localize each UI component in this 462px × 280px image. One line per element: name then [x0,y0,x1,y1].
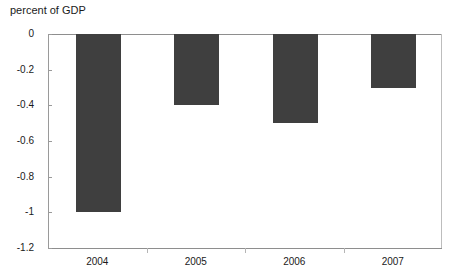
y-tick-label: -0.8 [17,172,34,182]
y-tick-label: 0 [28,29,34,39]
x-tick-mark [245,248,246,253]
y-tick-mark [48,141,52,142]
plot-area [48,34,442,248]
bar-chart-figure: percent of GDP 0-0.2-0.4-0.6-0.8-1-1.2 2… [0,0,462,280]
x-tick-mark [344,248,345,253]
x-tick-label-2004: 2004 [86,256,108,268]
y-axis: 0-0.2-0.4-0.6-0.8-1-1.2 [0,0,42,280]
bar-2005 [174,34,219,105]
x-tick-label-2007: 2007 [382,256,404,268]
y-tick-mark [48,105,52,106]
y-tick-label: -1.2 [17,243,34,253]
y-tick-label: -1 [25,207,34,217]
x-tick-label-2006: 2006 [283,256,305,268]
y-tick-label: -0.4 [17,100,34,110]
y-tick-mark [48,212,52,213]
y-tick-mark [48,248,52,249]
y-tick-label: -0.6 [17,136,34,146]
y-tick-mark [48,70,52,71]
bar-2006 [273,34,318,123]
y-tick-label: -0.2 [17,65,34,75]
bar-2007 [371,34,416,88]
x-tick-label-2005: 2005 [185,256,207,268]
y-tick-mark [48,177,52,178]
x-tick-mark [147,248,148,253]
bar-2004 [76,34,121,212]
y-tick-mark [48,34,52,35]
